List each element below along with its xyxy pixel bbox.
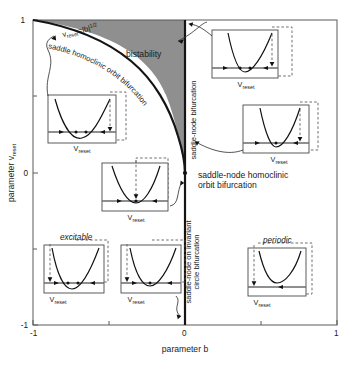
- x-tick-label-mid: 0: [182, 329, 187, 338]
- y-axis-ticks: [33, 20, 38, 325]
- svg-text:circle bifurcation: circle bifurcation: [192, 235, 201, 290]
- y-axis-label-prefix: parameter v: [6, 155, 16, 202]
- inset-saddle-node-upper-right: Vreset: [188, 22, 292, 90]
- saddle-node-label: saddle-node bifurcation: [189, 81, 198, 160]
- svg-text:saddle-node bifurcation: saddle-node bifurcation: [189, 81, 198, 160]
- snic-label-line2: circle bifurcation: [192, 235, 201, 290]
- bistability-label: bistability: [126, 49, 162, 59]
- x-tick-label-min: -1: [30, 329, 38, 338]
- excitable-caption: excitable: [60, 233, 93, 242]
- saddle-node-homoclinic-label-line1: saddle-node homoclinic: [198, 170, 289, 180]
- inset-vreset-label: Vreset: [238, 80, 255, 90]
- inset-excitable-right: Vreset: [121, 240, 185, 319]
- inset-excitable-left: excitable Vreset: [44, 233, 108, 305]
- saddle-node-homoclinic-label-line2: orbit bifurcation: [198, 180, 257, 190]
- inset-periodic: periodic Vreset: [248, 236, 312, 308]
- inset-vreset-label: Vreset: [74, 144, 91, 154]
- inset-saddle-node-lower-right: Vreset: [195, 102, 318, 165]
- inset-vreset-label: Vreset: [50, 295, 67, 305]
- x-axis-label: parameter b: [162, 344, 209, 354]
- inset-vreset-label: Vreset: [271, 155, 288, 165]
- y-tick-label-max: 1: [20, 16, 25, 25]
- y-axis-label: parameter vreset: [6, 144, 17, 202]
- bifurcation-phase-diagram: -1 0 1 1 0 -1 parameter b parameter vres…: [0, 0, 350, 366]
- periodic-caption: periodic: [262, 236, 292, 245]
- inset-vreset-label: Vreset: [128, 213, 145, 223]
- svg-text:parameter vreset: parameter vreset: [6, 144, 17, 202]
- saddle-node-homoclinic-point: [183, 171, 187, 175]
- y-tick-label-min: -1: [21, 321, 29, 330]
- y-tick-label-mid: 0: [23, 169, 28, 178]
- inset-vreset-label: Vreset: [128, 295, 145, 305]
- inset-vreset-label: Vreset: [254, 298, 271, 308]
- figure-canvas: -1 0 1 1 0 -1 parameter b parameter vres…: [0, 0, 350, 366]
- y-axis-label-subscript: reset: [11, 144, 17, 156]
- x-tick-label-max: 1: [334, 329, 339, 338]
- inset-snic-center: Vreset: [102, 158, 184, 223]
